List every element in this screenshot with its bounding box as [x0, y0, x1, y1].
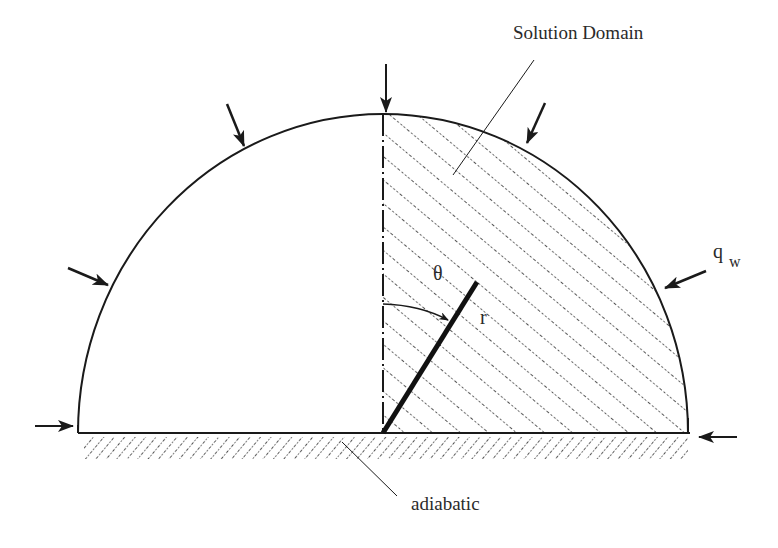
theta-label: θ: [433, 262, 443, 285]
solution-domain-region: [383, 114, 688, 433]
diagram-canvas: Solution Domain θ r q w adiabatic: [0, 0, 778, 548]
adiabatic-label: adiabatic: [411, 493, 480, 515]
heat-flux-arrow-icon: [227, 104, 244, 146]
heat-flux-arrow-icon: [527, 103, 545, 143]
heat-flux-q-label: q: [713, 240, 723, 263]
heat-flux-arrow-icon: [665, 271, 706, 288]
heat-flux-w-subscript: w: [729, 253, 741, 271]
adiabatic-ground-hatch: [84, 437, 688, 459]
solution-domain-label: Solution Domain: [513, 22, 643, 44]
diagram-svg: [0, 0, 778, 548]
r-label: r: [480, 306, 487, 329]
heat-flux-arrow-icon: [68, 268, 108, 285]
